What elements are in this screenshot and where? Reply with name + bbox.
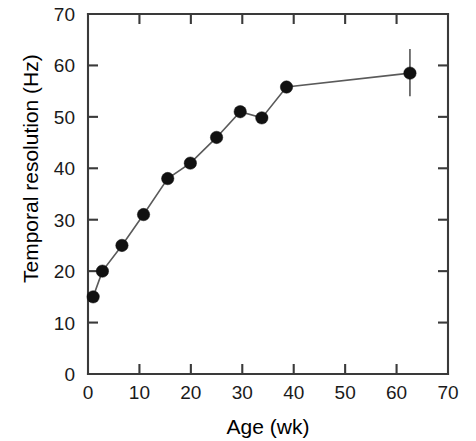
x-tick-label-30: 30 [232, 382, 253, 403]
x-axis-tick-labels: 010203040506070 [83, 382, 459, 403]
data-point [184, 157, 196, 169]
x-tick-label-50: 50 [335, 382, 356, 403]
y-tick-label-40: 40 [54, 158, 75, 179]
data-point [404, 67, 416, 79]
y-axis-title: Temporal resolution (Hz) [19, 54, 42, 283]
x-tick-label-60: 60 [386, 382, 407, 403]
data-point [137, 208, 149, 220]
y-tick-label-50: 50 [54, 107, 75, 128]
temporal-resolution-vs-age-chart: Temporal resolution (Hz) Age (wk) 010203… [0, 0, 476, 441]
data-series-line [93, 73, 410, 297]
data-point [256, 112, 268, 124]
x-tick-label-40: 40 [283, 382, 304, 403]
data-point [162, 172, 174, 184]
y-tick-label-70: 70 [54, 4, 75, 25]
y-axis-ticks [88, 65, 448, 322]
x-tick-label-10: 10 [129, 382, 150, 403]
x-axis-title: Age (wk) [227, 415, 310, 438]
data-point [116, 239, 128, 251]
data-point [280, 81, 292, 93]
x-tick-label-20: 20 [180, 382, 201, 403]
x-tick-label-0: 0 [83, 382, 94, 403]
data-point-markers [87, 67, 416, 303]
y-tick-label-30: 30 [54, 210, 75, 231]
y-tick-label-10: 10 [54, 313, 75, 334]
chart-figure: Temporal resolution (Hz) Age (wk) 010203… [0, 0, 476, 441]
y-axis-tick-labels: 010203040506070 [54, 4, 75, 385]
y-tick-label-0: 0 [64, 364, 75, 385]
data-point [210, 131, 222, 143]
y-tick-label-20: 20 [54, 261, 75, 282]
data-point [234, 106, 246, 118]
x-tick-label-70: 70 [437, 382, 458, 403]
x-axis-ticks [139, 14, 396, 374]
y-tick-label-60: 60 [54, 55, 75, 76]
data-point [96, 265, 108, 277]
data-point [87, 291, 99, 303]
